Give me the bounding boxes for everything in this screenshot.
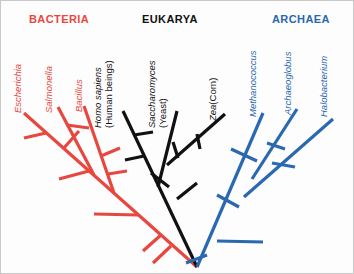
- taxon-common-zea: (Corn): [207, 78, 218, 105]
- twig-a4: [217, 241, 263, 242]
- taxon-label-zea: Zea(Corn): [208, 78, 218, 121]
- figure-canvas: BACTERIA EUKARYA ARCHAEA: [0, 0, 354, 274]
- twig-e2: [125, 156, 144, 160]
- taxon-genus-homo-sapiens: Homo sapiens: [93, 60, 104, 128]
- taxon-genus-zea: Zea: [207, 105, 218, 121]
- taxon-genus-methanococcus: Methanococcus: [248, 50, 258, 117]
- twig-bac-1: [101, 148, 120, 156]
- taxon-label-salmonella: Salmonella: [44, 66, 54, 113]
- taxon-genus-archaeoglobus: Archaeoglobus: [283, 52, 293, 115]
- twig-arc-1: [272, 163, 295, 167]
- taxon-label-halobacterium: Halobacterium: [319, 56, 329, 117]
- taxon-genus-halobacterium: Halobacterium: [319, 56, 329, 117]
- archaea-clade: [186, 109, 333, 267]
- taxon-common-homo-sapiens: (Human beings): [104, 60, 115, 128]
- eukarya-clade: [123, 111, 225, 267]
- taxon-genus-escherichia: Escherichia: [13, 64, 23, 113]
- taxon-common-saccharomyces: (Yeast): [158, 60, 169, 128]
- taxon-genus-salmonella: Salmonella: [44, 66, 54, 113]
- phylogenetic-tree-graphic: [1, 1, 354, 274]
- twig-b6: [153, 246, 171, 263]
- taxon-label-methanococcus: Methanococcus: [248, 50, 258, 117]
- twig-b5: [143, 235, 161, 251]
- twig-bac-2: [108, 171, 127, 174]
- taxon-label-escherichia: Escherichia: [13, 64, 23, 113]
- twig-b3: [59, 171, 89, 179]
- taxon-label-bacillus: Bacillus: [74, 79, 84, 112]
- taxon-label-archaeoglobus: Archaeoglobus: [283, 52, 293, 115]
- taxon-label-saccharomyces: Saccharomyces (Yeast): [147, 60, 168, 128]
- taxon-genus-saccharomyces: Saccharomyces: [147, 60, 158, 128]
- taxon-label-homo-sapiens: Homo sapiens (Human beings): [93, 60, 114, 128]
- twig-b1: [24, 133, 46, 138]
- twig-e1: [134, 132, 153, 135]
- branch-halobacterium: [244, 119, 333, 197]
- twig-e4: [177, 183, 197, 199]
- taxon-genus-bacillus: Bacillus: [74, 79, 84, 112]
- twig-b4: [94, 214, 138, 215]
